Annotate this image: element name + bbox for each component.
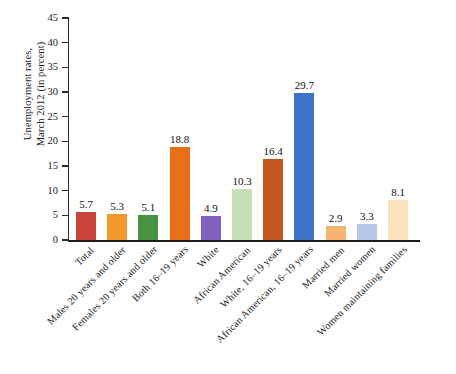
bar-value-label: 29.7: [295, 79, 314, 91]
bar-value-label: 16.4: [264, 145, 283, 157]
bar: 4.9: [201, 216, 221, 240]
y-axis-tick-label: 25: [14, 112, 58, 123]
bar: 2.9: [326, 226, 346, 240]
x-axis-category-label: Females 20 years and older: [70, 244, 159, 333]
y-axis-tick-label: 0: [14, 235, 58, 246]
x-axis-category-label: Both 16–19 years: [130, 244, 190, 304]
bar-value-label: 10.3: [232, 175, 251, 187]
bars-container: 5.75.35.118.84.910.316.429.72.93.38.1: [68, 18, 420, 240]
y-axis-tick-label: 15: [14, 161, 58, 172]
x-axis-category-label: White, 16–19 years: [218, 244, 284, 310]
x-axis-category-label: Married women: [322, 244, 377, 299]
x-axis-category-label: Males 20 years and older: [45, 244, 128, 327]
x-axis-category-label: African American, 16–19 years: [214, 244, 315, 345]
unemployment-bar-chart: Unemployment rates, March 2012 (in perce…: [0, 0, 456, 374]
bar: 5.1: [138, 215, 158, 240]
x-axis-line: [68, 240, 420, 242]
bar: 18.8: [170, 147, 190, 240]
x-axis-category-label: Total: [73, 244, 96, 267]
bar-value-label: 2.9: [329, 212, 343, 224]
bar-value-label: 5.1: [142, 201, 156, 213]
bar: 5.3: [107, 214, 127, 240]
x-axis-category-label: Married men: [300, 244, 346, 290]
bar: 3.3: [357, 224, 377, 240]
x-axis-category-label: African American: [191, 244, 252, 305]
bar: 8.1: [388, 200, 408, 240]
bar-value-label: 5.7: [79, 198, 93, 210]
y-axis-tick-label: 40: [14, 38, 58, 49]
bar-value-label: 8.1: [391, 186, 405, 198]
bar: 29.7: [294, 93, 314, 240]
y-axis-tick-label: 45: [14, 13, 58, 24]
y-axis-tick-label: 20: [14, 136, 58, 147]
bar-value-label: 3.3: [360, 210, 374, 222]
x-axis-category-label: White: [195, 244, 221, 270]
bar-value-label: 18.8: [170, 133, 189, 145]
y-axis-tick-label: 35: [14, 62, 58, 73]
bar-value-label: 5.3: [110, 200, 124, 212]
x-axis-category-label: Women maintaining families: [315, 244, 409, 338]
y-axis-tick-label: 5: [14, 210, 58, 221]
bar: 16.4: [263, 159, 283, 240]
y-axis-tick-label: 30: [14, 87, 58, 98]
bar: 10.3: [232, 189, 252, 240]
bar-value-label: 4.9: [204, 202, 218, 214]
y-axis-tick-label: 10: [14, 186, 58, 197]
bar: 5.7: [76, 212, 96, 240]
